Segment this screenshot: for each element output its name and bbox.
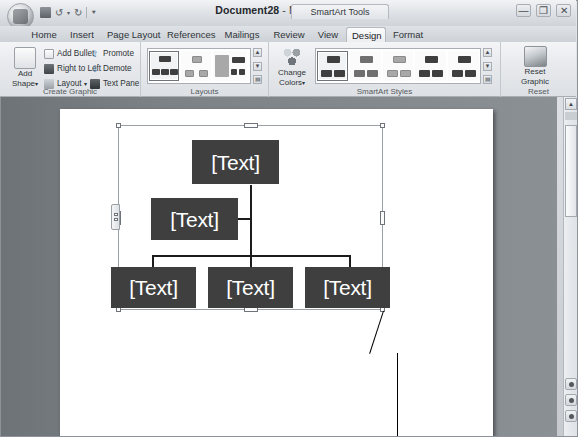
resize-handle-middle-right[interactable]: [380, 211, 385, 225]
layout-thumbnail-2[interactable]: [181, 51, 211, 81]
add-shape-button[interactable]: Add Shape▾: [8, 47, 42, 88]
scroll-up-button[interactable]: ▲: [565, 98, 577, 110]
title-sep: -: [279, 4, 289, 16]
layouts-more-button[interactable]: ▤: [253, 75, 262, 84]
document-page[interactable]: [Text] [Text] [Text] [Text] [Text]: [60, 109, 493, 436]
ribbon-tab-bar: Home Insert Page Layout References Maili…: [0, 26, 576, 42]
group-label-layouts: Layouts: [141, 87, 268, 96]
ribbon-group-smartart-styles: Change Colors▾: [269, 42, 501, 97]
styles-scroll-down-button[interactable]: ▼: [483, 62, 492, 71]
resize-handle-top-left[interactable]: [116, 123, 121, 128]
add-bullet-icon: [44, 49, 54, 59]
tab-format[interactable]: Format: [388, 27, 428, 42]
add-bullet-button[interactable]: Add Bullet: [44, 47, 94, 60]
smartart-node-child-1[interactable]: [Text]: [111, 267, 196, 308]
add-shape-icon: [14, 47, 36, 69]
ribbon: Add Shape▾ Add Bullet Right to Left Layo…: [0, 42, 576, 97]
layouts-gallery[interactable]: [147, 48, 251, 84]
previous-page-button[interactable]: [565, 378, 577, 390]
smartart-style-thumbnail-4[interactable]: [415, 51, 446, 81]
word-window: ↺ ▾ ↻ ⯆ Document28 - Microsoft Word Smar…: [0, 0, 578, 437]
smartart-node-second[interactable]: [Text]: [151, 198, 238, 240]
change-colors-label-line2: Colors: [279, 78, 302, 87]
smartart-style-thumbnail-1[interactable]: [317, 51, 348, 81]
change-colors-label-line1: Change: [278, 69, 306, 78]
promote-label: Promote: [103, 49, 134, 58]
connector-vertical-main: [250, 185, 252, 257]
add-bullet-label: Add Bullet: [57, 49, 94, 58]
group-label-reset: Reset: [501, 87, 576, 96]
smartart-styles-gallery[interactable]: [315, 48, 481, 84]
change-colors-icon: [281, 46, 303, 68]
ribbon-group-create-graphic: Add Shape▾ Add Bullet Right to Left Layo…: [0, 42, 141, 97]
select-browse-object-button[interactable]: [565, 394, 577, 406]
smartart-selection-frame[interactable]: [Text] [Text] [Text] [Text] [Text]: [118, 125, 383, 310]
reset-graphic-label-line1: Reset: [525, 68, 546, 77]
styles-more-button[interactable]: ▤: [483, 75, 492, 84]
add-shape-dropdown-icon: ▾: [35, 81, 38, 87]
tab-design[interactable]: Design: [346, 27, 386, 42]
layouts-gallery-scroll: ▲ ▼ ▤: [253, 48, 262, 84]
tab-insert[interactable]: Insert: [64, 27, 100, 42]
layout-thumbnail-1[interactable]: [149, 51, 179, 81]
close-button[interactable]: ✕: [556, 4, 571, 17]
minimize-button[interactable]: —: [516, 4, 531, 17]
tab-view[interactable]: View: [312, 27, 344, 42]
ribbon-group-reset: Reset Graphic Reset: [501, 42, 576, 97]
tab-page-layout[interactable]: Page Layout: [102, 27, 160, 42]
smartart-node-child-3[interactable]: [Text]: [305, 267, 390, 308]
smartart-style-thumbnail-5[interactable]: [448, 51, 479, 81]
change-colors-button[interactable]: Change Colors▾: [273, 46, 311, 87]
reset-graphic-label-line2: Graphic: [521, 78, 549, 87]
annotation-leader-line-2: [397, 353, 398, 436]
title-bar: ↺ ▾ ↻ ⯆ Document28 - Microsoft Word Smar…: [0, 0, 576, 26]
group-label-create-graphic: Create Graphic: [0, 87, 140, 96]
connector-drop-center: [250, 255, 252, 267]
smartart-style-thumbnail-2[interactable]: [350, 51, 381, 81]
next-page-button[interactable]: [565, 410, 577, 422]
resize-handle-top-center[interactable]: [244, 123, 258, 128]
layouts-scroll-down-button[interactable]: ▼: [253, 62, 262, 71]
tab-review[interactable]: Review: [268, 27, 310, 42]
group-label-smartart-styles: SmartArt Styles: [269, 87, 500, 96]
right-to-left-icon: [44, 64, 54, 74]
connector-drop-right: [349, 255, 351, 267]
tab-references[interactable]: References: [162, 27, 216, 42]
vertical-scrollbar[interactable]: ▲: [563, 97, 577, 436]
annotation-leader-line-1: [369, 311, 384, 354]
text-pane-toggle-icon[interactable]: [111, 204, 120, 230]
smartart-style-thumbnail-3[interactable]: [383, 51, 414, 81]
ribbon-group-layouts: ▲ ▼ ▤ Layouts: [141, 42, 269, 97]
tab-home[interactable]: Home: [26, 27, 62, 42]
contextual-tab-header: SmartArt Tools: [291, 4, 389, 19]
change-colors-dropdown-icon: ▾: [302, 80, 305, 86]
smartart-styles-gallery-scroll: ▲ ▼ ▤: [483, 48, 492, 84]
connector-second-level: [238, 218, 252, 220]
layouts-scroll-up-button[interactable]: ▲: [253, 48, 262, 57]
resize-handle-top-right[interactable]: [380, 123, 385, 128]
document-workspace: [Text] [Text] [Text] [Text] [Text] Selec…: [1, 97, 557, 436]
promote-button[interactable]: ⇧ Promote: [90, 47, 134, 60]
document-name: Document28: [215, 4, 279, 16]
smartart-node-child-2[interactable]: [Text]: [208, 267, 293, 308]
promote-icon: ⇧: [90, 49, 100, 59]
demote-label: Demote: [103, 64, 132, 73]
restore-button[interactable]: ❐: [536, 4, 551, 17]
window-controls: — ❐ ✕: [516, 4, 571, 17]
layout-thumbnail-3[interactable]: [213, 51, 247, 81]
add-shape-label-line1: Add: [18, 70, 32, 79]
demote-icon: ⇩: [90, 64, 100, 74]
document-title: Document28 - Microsoft Word: [0, 4, 576, 16]
reset-graphic-icon: [524, 46, 547, 67]
smartart-node-top[interactable]: [Text]: [192, 140, 279, 184]
connector-drop-left: [152, 255, 154, 267]
demote-button[interactable]: ⇩ Demote: [90, 62, 132, 75]
styles-scroll-up-button[interactable]: ▲: [483, 48, 492, 57]
scrollbar-thumb[interactable]: [565, 125, 577, 217]
reset-graphic-button[interactable]: Reset Graphic: [512, 46, 558, 86]
scroll-track-mark: [565, 112, 577, 120]
tab-mailings[interactable]: Mailings: [218, 27, 266, 42]
